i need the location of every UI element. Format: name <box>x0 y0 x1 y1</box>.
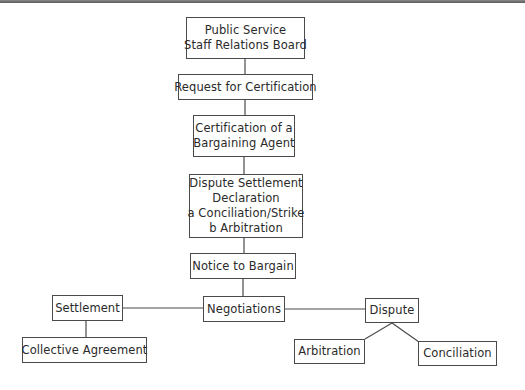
node-certification-of-bargaining-agent: Certification of a Bargaining Agent <box>193 115 295 157</box>
node-label-line: Collective Agreement <box>22 343 148 358</box>
node-request-for-certification: Request for Certification <box>178 74 313 100</box>
node-label-line: Negotiations <box>207 302 281 317</box>
node-label-line: Staff Relations Board <box>184 38 307 53</box>
node-label-line: Arbitration <box>298 344 361 359</box>
node-label-line: Request for Certification <box>174 80 317 95</box>
node-label-line: Dispute <box>370 303 415 318</box>
node-arbitration: Arbitration <box>294 339 365 364</box>
node-collective-agreement: Collective Agreement <box>22 337 147 363</box>
edge-dispute-conciliation <box>392 323 419 342</box>
node-label-line: a Conciliation/Strike <box>187 206 304 221</box>
node-label-line: b Arbitration <box>209 221 283 236</box>
node-label-line: Conciliation <box>423 346 492 361</box>
node-negotiations: Negotiations <box>203 296 285 322</box>
node-label-line: Certification of a <box>195 121 292 136</box>
node-dispute-settlement-declaration: Dispute Settlement Declaration a Concili… <box>189 174 303 238</box>
node-label-line: Public Service <box>205 23 287 38</box>
node-dispute: Dispute <box>365 298 419 323</box>
edge-dispute-arbitration <box>365 323 392 339</box>
node-settlement: Settlement <box>52 295 123 321</box>
node-public-service-staff-relations-board: Public Service Staff Relations Board <box>186 17 305 59</box>
node-label-line: Dispute Settlement <box>189 176 302 191</box>
node-conciliation: Conciliation <box>418 341 497 366</box>
node-label-line: Declaration <box>212 191 279 206</box>
node-notice-to-bargain: Notice to Bargain <box>190 253 296 279</box>
node-label-line: Bargaining Agent <box>193 136 294 151</box>
node-label-line: Settlement <box>55 301 120 316</box>
node-label-line: Notice to Bargain <box>192 259 294 274</box>
